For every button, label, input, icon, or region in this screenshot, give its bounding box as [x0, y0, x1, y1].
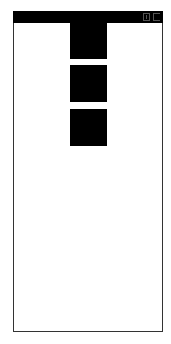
- title-bar[interactable]: [13, 11, 163, 23]
- black-block-2: [70, 65, 107, 102]
- close-icon[interactable]: [153, 13, 160, 21]
- window-controls: [143, 12, 160, 22]
- black-block-1: [70, 23, 107, 59]
- black-block-3: [70, 109, 107, 146]
- restore-icon[interactable]: [143, 13, 150, 21]
- app-window: [13, 11, 163, 332]
